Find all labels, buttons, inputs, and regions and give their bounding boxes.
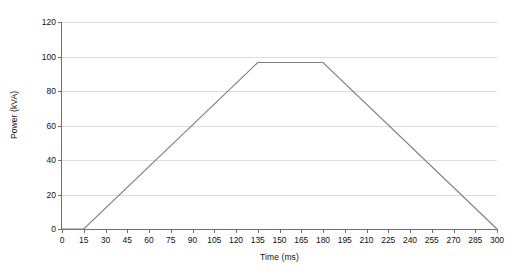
x-tick-label: 165: [294, 235, 308, 245]
x-tick-mark: [497, 229, 498, 233]
x-tick-label: 255: [425, 235, 439, 245]
series-layer: [62, 22, 497, 230]
y-tick-label: 40: [47, 155, 56, 165]
x-tick-label: 270: [446, 235, 460, 245]
x-tick-label: 150: [272, 235, 286, 245]
x-tick-label: 285: [468, 235, 482, 245]
x-axis-title: Time (ms): [62, 252, 497, 262]
data-line-power: [62, 63, 497, 229]
x-tick-label: 210: [359, 235, 373, 245]
x-tick-label: 135: [251, 235, 265, 245]
x-tick-label: 30: [101, 235, 110, 245]
y-tick-label: 60: [47, 121, 56, 131]
x-tick-label: 240: [403, 235, 417, 245]
y-tick-label: 120: [42, 17, 56, 27]
y-tick-label: 80: [47, 86, 56, 96]
y-axis-title: Power (kVA): [2, 0, 26, 229]
x-tick-label: 60: [144, 235, 153, 245]
x-tick-label: 180: [316, 235, 330, 245]
x-tick-label: 45: [123, 235, 132, 245]
y-tick-label: 0: [51, 224, 56, 234]
plot-area: 020406080100120 015304560759010512013515…: [62, 22, 497, 229]
x-tick-label: 75: [166, 235, 175, 245]
y-axis-title-text: Power (kVA): [9, 90, 19, 138]
x-tick-label: 225: [381, 235, 395, 245]
x-tick-label: 15: [79, 235, 88, 245]
x-tick-label: 195: [338, 235, 352, 245]
x-tick-label: 120: [229, 235, 243, 245]
x-tick-label: 0: [60, 235, 65, 245]
y-tick-label: 100: [42, 52, 56, 62]
x-tick-label: 105: [207, 235, 221, 245]
x-tick-label: 90: [188, 235, 197, 245]
y-tick-label: 20: [47, 190, 56, 200]
x-tick-label: 300: [490, 235, 504, 245]
line-chart: Power (kVA) 020406080100120 015304560759…: [0, 0, 520, 275]
